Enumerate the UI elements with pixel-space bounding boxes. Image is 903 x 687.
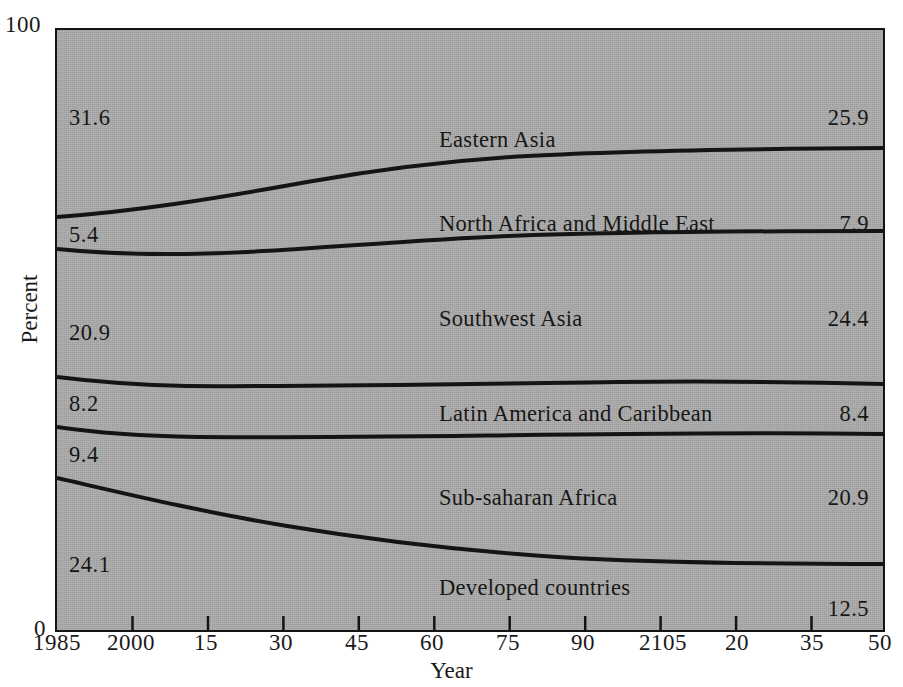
left-value-sub-saharan: 9.4 bbox=[69, 442, 99, 468]
left-value-developed: 24.1 bbox=[69, 552, 110, 578]
right-value-sub-saharan: 20.9 bbox=[828, 485, 869, 511]
right-value-developed: 12.5 bbox=[828, 596, 869, 622]
plot-area: Eastern Asia North Africa and Middle Eas… bbox=[55, 28, 885, 632]
band-label-eastern-asia: Eastern Asia bbox=[439, 127, 556, 153]
boundary-eastern-asia bbox=[57, 148, 885, 217]
x-tick-label-8: 2105 bbox=[639, 630, 687, 656]
x-tick-label-11: 50 bbox=[868, 630, 892, 656]
boundary-southwest-asia bbox=[57, 377, 885, 386]
stacked-area-chart-figure: 100 0 Percent bbox=[0, 0, 903, 687]
band-label-southwest-asia: Southwest Asia bbox=[439, 306, 583, 332]
x-tick-label-1: 2000 bbox=[107, 630, 155, 656]
right-value-latin-america: 8.4 bbox=[839, 401, 869, 427]
y-axis-max-label: 100 bbox=[5, 12, 41, 38]
left-value-eastern-asia: 31.6 bbox=[69, 105, 110, 131]
x-axis-title: Year bbox=[0, 658, 903, 684]
left-value-latin-america: 8.2 bbox=[69, 391, 99, 417]
right-value-southwest-asia: 24.4 bbox=[828, 306, 869, 332]
boundary-latin-america bbox=[57, 427, 885, 437]
x-tick-label-6: 75 bbox=[496, 630, 520, 656]
band-label-sub-saharan: Sub-saharan Africa bbox=[439, 485, 617, 511]
x-tick-label-7: 90 bbox=[571, 630, 595, 656]
x-tick-label-9: 20 bbox=[725, 630, 749, 656]
x-tick-label-2: 15 bbox=[194, 630, 218, 656]
band-label-latin-america: Latin America and Caribbean bbox=[439, 401, 713, 427]
x-tick-label-0: 1985 bbox=[33, 630, 81, 656]
right-value-north-africa: 7.9 bbox=[839, 211, 869, 237]
left-value-southwest-asia: 20.9 bbox=[69, 320, 110, 346]
left-value-north-africa: 5.4 bbox=[69, 222, 99, 248]
x-tick-label-5: 60 bbox=[420, 630, 444, 656]
x-tick-label-4: 45 bbox=[345, 630, 369, 656]
band-label-north-africa: North Africa and Middle East bbox=[439, 211, 715, 237]
right-value-eastern-asia: 25.9 bbox=[828, 105, 869, 131]
band-label-developed: Developed countries bbox=[439, 575, 630, 601]
y-axis-title: Percent bbox=[17, 254, 43, 364]
x-tick-label-3: 30 bbox=[269, 630, 293, 656]
x-tick-label-10: 35 bbox=[800, 630, 824, 656]
